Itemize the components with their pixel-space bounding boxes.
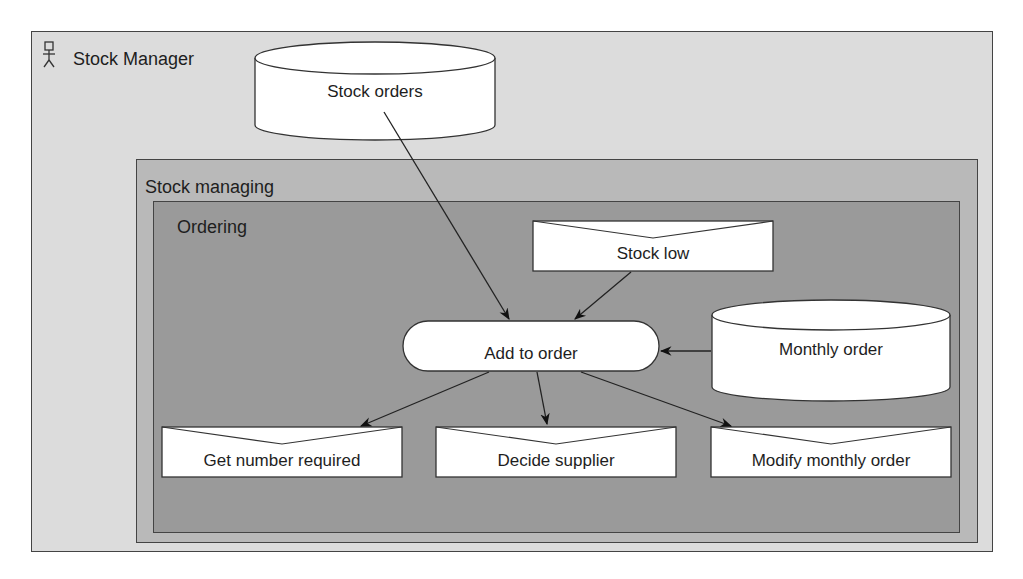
edge-stock-low-to-add-to-order [575, 272, 631, 319]
diagram-canvas [0, 0, 1023, 579]
edge-add-to-order-to-decide-supplier [537, 372, 547, 424]
stock-low-label: Stock low [533, 244, 773, 264]
add-to-order-label: Add to order [403, 344, 659, 364]
actor-label: Stock Manager [73, 49, 194, 70]
ordering-label: Ordering [177, 217, 247, 238]
actor-stick-figure-icon [43, 42, 55, 67]
edge-add-to-order-to-modify-monthly [581, 372, 731, 426]
stock-managing-label: Stock managing [145, 177, 274, 198]
stock-orders-label: Stock orders [255, 82, 495, 102]
edge-add-to-order-to-get-number [361, 372, 489, 426]
edge-stock-orders-to-add-to-order [384, 112, 509, 319]
decide-supplier-label: Decide supplier [436, 451, 676, 471]
monthly-order-label: Monthly order [712, 340, 950, 360]
modify-monthly-order-label: Modify monthly order [711, 451, 951, 471]
get-number-required-label: Get number required [162, 451, 402, 471]
